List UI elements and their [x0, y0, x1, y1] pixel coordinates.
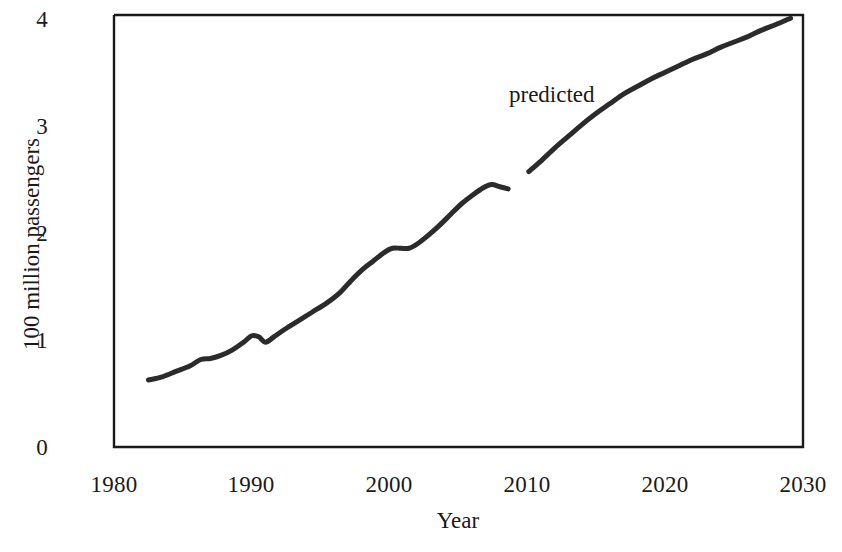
- x-tick-label-2010: 2010: [504, 473, 551, 496]
- line-chart: 0 1 2 3 4 1980 1990 2000 2010 2020 2030 …: [0, 0, 842, 552]
- x-tick-label-1990: 1990: [228, 473, 275, 496]
- predicted-series-label: predicted: [509, 83, 595, 106]
- x-tick-label-2020: 2020: [642, 473, 689, 496]
- x-axis-title: Year: [437, 509, 479, 532]
- series-historical: [148, 185, 508, 380]
- y-axis-title: 100 million passengers: [20, 138, 43, 350]
- x-tick-label-2030: 2030: [780, 473, 827, 496]
- chart-canvas: [0, 0, 842, 552]
- x-tick-label-2000: 2000: [366, 473, 413, 496]
- y-tick-label-4: 4: [8, 8, 48, 31]
- x-tick-label-1980: 1980: [91, 473, 138, 496]
- y-tick-label-3: 3: [8, 115, 48, 138]
- plot-frame: [114, 15, 803, 447]
- y-tick-label-0: 0: [8, 436, 48, 459]
